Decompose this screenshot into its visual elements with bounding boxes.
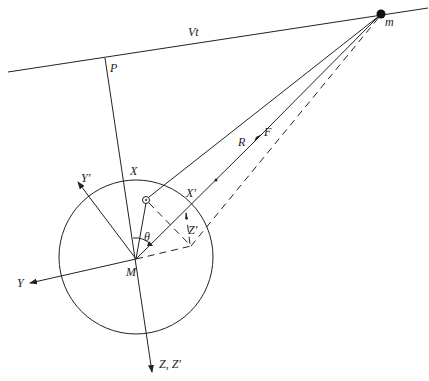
label-z-prime: Z' [188,223,198,237]
label-m: m [385,15,394,29]
force-line [149,16,379,197]
trajectory-line [8,8,428,72]
label-x-prime: X' [185,186,196,200]
distance-line-lower [136,138,258,259]
label-vt: Vt [188,25,199,39]
label-f: F [263,125,272,139]
label-y-prime: Y' [81,171,91,185]
physics-diagram: Vt m P F R X X' Y' Y Z, Z' Z' θ M [0,0,429,381]
label-r: R [237,135,246,149]
label-p: P [109,61,118,75]
distance-dot [215,179,218,182]
small-circle-center [145,199,147,201]
y-prime-axis [78,182,136,259]
label-y: Y [17,276,25,290]
dashed-line-zp-m [191,16,380,246]
y-axis [30,259,136,283]
dashed-line-m-zp [136,246,191,259]
distance-arrow-icon [254,134,262,142]
label-x: X [129,164,138,178]
x-z-axis-line [105,58,152,372]
label-m-center: M [125,265,137,279]
distance-line-upper [258,16,379,138]
label-theta: θ [144,230,150,244]
label-z-zprime: Z, Z' [159,357,181,371]
